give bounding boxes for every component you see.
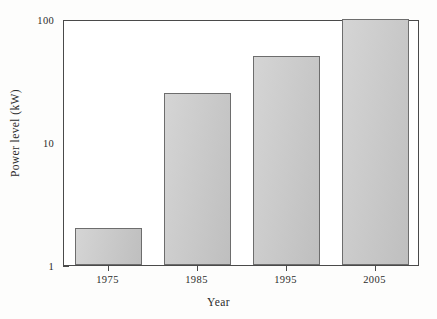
y-tick-label-100: 100 bbox=[37, 15, 54, 26]
x-tick-label-1985: 1985 bbox=[185, 274, 208, 285]
y-tick-label-10: 10 bbox=[43, 138, 54, 149]
x-tick-1985 bbox=[197, 266, 198, 271]
bar-1985 bbox=[164, 93, 231, 265]
y-tick-label-1: 1 bbox=[48, 261, 54, 272]
x-tick-1995 bbox=[286, 266, 287, 271]
x-tick-label-1995: 1995 bbox=[274, 274, 297, 285]
y-tick-major bbox=[63, 266, 69, 267]
y-axis: 110100 bbox=[0, 0, 63, 319]
x-axis-title: Year bbox=[0, 296, 437, 308]
x-tick-2005 bbox=[375, 266, 376, 271]
bar-chart-figure: Power level (kW) 110100 1975198519952005… bbox=[0, 0, 437, 319]
x-tick-1975 bbox=[108, 266, 109, 271]
bar-1975 bbox=[75, 228, 142, 265]
x-tick-label-2005: 2005 bbox=[363, 274, 386, 285]
bar-1995 bbox=[253, 56, 320, 265]
plot-area bbox=[63, 20, 419, 266]
bar-2005 bbox=[342, 19, 409, 265]
x-tick-label-1975: 1975 bbox=[96, 274, 119, 285]
